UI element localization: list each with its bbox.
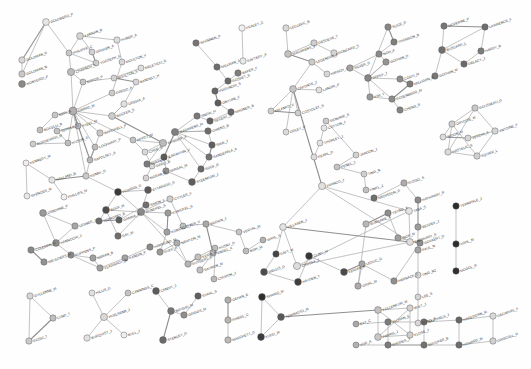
graph-node[interactable] <box>421 342 427 348</box>
graph-node[interactable] <box>321 125 327 131</box>
graph-node[interactable] <box>258 334 265 341</box>
graph-node[interactable] <box>472 105 478 111</box>
graph-node[interactable] <box>456 342 462 348</box>
graph-node[interactable] <box>23 160 29 166</box>
graph-node[interactable] <box>215 100 221 106</box>
graph-node[interactable] <box>278 314 285 321</box>
graph-node[interactable] <box>80 79 86 85</box>
graph-node[interactable] <box>109 113 116 120</box>
graph-node[interactable] <box>306 253 313 260</box>
graph-node[interactable] <box>355 283 361 289</box>
graph-node[interactable] <box>26 338 32 344</box>
graph-node[interactable] <box>407 305 413 311</box>
graph-node[interactable] <box>144 161 150 167</box>
graph-node[interactable] <box>324 71 330 77</box>
graph-node[interactable] <box>240 58 246 64</box>
graph-node[interactable] <box>311 154 317 160</box>
graph-node[interactable] <box>453 241 459 247</box>
graph-node[interactable] <box>92 144 98 150</box>
graph-node[interactable] <box>415 294 421 300</box>
graph-node[interactable] <box>323 118 329 124</box>
graph-node[interactable] <box>111 75 117 81</box>
graph-node[interactable] <box>225 337 231 343</box>
graph-node[interactable] <box>125 290 131 296</box>
graph-node[interactable] <box>37 127 43 133</box>
graph-node[interactable] <box>385 319 391 325</box>
graph-node[interactable] <box>474 153 480 159</box>
graph-node[interactable] <box>97 130 103 136</box>
graph-node[interactable] <box>407 81 413 87</box>
graph-node[interactable] <box>375 307 382 314</box>
graph-node[interactable] <box>260 237 266 243</box>
graph-node[interactable] <box>285 51 292 58</box>
graph-node[interactable] <box>206 154 212 160</box>
graph-node[interactable] <box>49 177 55 183</box>
graph-node[interactable] <box>197 267 203 273</box>
graph-node[interactable] <box>225 297 231 303</box>
graph-node[interactable] <box>198 166 204 172</box>
graph-node[interactable] <box>43 19 50 26</box>
graph-node[interactable] <box>415 224 421 230</box>
graph-node[interactable] <box>465 135 471 141</box>
graph-node[interactable] <box>19 81 26 88</box>
graph-node[interactable] <box>40 210 47 217</box>
graph-node[interactable] <box>461 61 467 67</box>
graph-node[interactable] <box>207 118 213 124</box>
graph-node[interactable] <box>389 96 395 102</box>
graph-node[interactable] <box>211 276 217 282</box>
graph-node[interactable] <box>194 113 200 119</box>
graph-node[interactable] <box>89 49 95 55</box>
graph-node[interactable] <box>283 25 289 31</box>
graph-node[interactable] <box>67 68 74 75</box>
graph-node[interactable] <box>185 261 191 267</box>
graph-node[interactable] <box>165 210 171 216</box>
graph-node[interactable] <box>138 65 144 71</box>
graph-node[interactable] <box>236 229 242 235</box>
graph-node[interactable] <box>30 141 36 147</box>
graph-node[interactable] <box>90 255 96 261</box>
graph-node[interactable] <box>109 90 115 96</box>
graph-node[interactable] <box>145 187 152 194</box>
graph-node[interactable] <box>52 112 58 118</box>
graph-node[interactable] <box>363 221 369 227</box>
graph-node[interactable] <box>193 40 199 46</box>
graph-node[interactable] <box>371 195 377 201</box>
graph-node[interactable] <box>295 279 302 286</box>
graph-node[interactable] <box>50 315 56 321</box>
graph-node[interactable] <box>97 265 103 271</box>
graph-node[interactable] <box>353 321 359 327</box>
graph-node[interactable] <box>28 247 34 253</box>
graph-node[interactable] <box>209 142 215 148</box>
graph-node[interactable] <box>385 24 391 30</box>
graph-node[interactable] <box>168 308 175 315</box>
graph-node[interactable] <box>268 108 274 114</box>
graph-node[interactable] <box>385 342 391 348</box>
graph-node[interactable] <box>41 259 47 265</box>
graph-node[interactable] <box>212 88 218 94</box>
graph-node[interactable] <box>142 149 148 155</box>
graph-node[interactable] <box>100 313 107 320</box>
graph-node[interactable] <box>365 75 372 82</box>
graph-node[interactable] <box>147 244 153 250</box>
graph-node[interactable] <box>261 269 268 276</box>
graph-node[interactable] <box>189 179 196 186</box>
graph-node[interactable] <box>318 182 325 189</box>
graph-node[interactable] <box>397 107 403 113</box>
graph-node[interactable] <box>415 197 421 203</box>
graph-node[interactable] <box>89 290 95 296</box>
graph-node[interactable] <box>353 152 359 158</box>
graph-node[interactable] <box>225 78 231 84</box>
graph-node[interactable] <box>395 235 401 241</box>
graph-node[interactable] <box>54 128 60 134</box>
graph-node[interactable] <box>482 24 488 30</box>
graph-node[interactable] <box>83 173 89 179</box>
graph-node[interactable] <box>243 248 249 254</box>
graph-node[interactable] <box>353 342 359 348</box>
graph-node[interactable] <box>19 71 25 77</box>
graph-node[interactable] <box>157 249 163 255</box>
graph-node[interactable] <box>143 175 149 181</box>
graph-node[interactable] <box>401 180 407 186</box>
graph-node[interactable] <box>65 140 71 146</box>
graph-node[interactable] <box>375 334 382 341</box>
graph-node[interactable] <box>316 87 322 93</box>
